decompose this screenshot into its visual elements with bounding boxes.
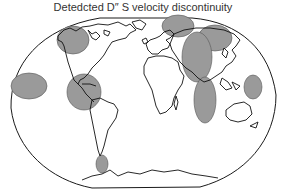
- arctic-region: [162, 15, 194, 37]
- western-pacific-region: [244, 75, 262, 99]
- central-asia-region: [182, 32, 212, 82]
- world-map: [0, 0, 286, 195]
- south-america-tip-region: [96, 155, 108, 173]
- caribbean-region: [67, 74, 101, 110]
- central-pacific-region: [11, 73, 47, 99]
- indian-ocean-region: [194, 77, 216, 123]
- alaska-region: [57, 26, 89, 54]
